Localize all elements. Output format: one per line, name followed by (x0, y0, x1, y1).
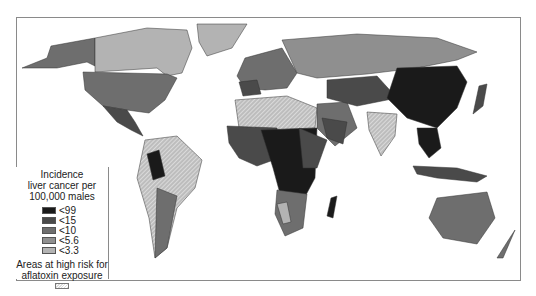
region-australia (429, 192, 495, 244)
region-indonesia (413, 166, 487, 182)
legend-risk-line: aflatoxin exposure (16, 270, 108, 281)
region-japan (473, 84, 487, 114)
legend-item: <10 (42, 225, 82, 235)
legend-swatch (42, 207, 56, 214)
region-greenland (197, 24, 247, 56)
region-new-zealand (497, 230, 515, 258)
legend-title-line: liver cancer per (16, 180, 108, 191)
legend-categories: <99 <15 <10 <5.6 <3.3 (42, 205, 82, 255)
legend-item: <5.6 (42, 235, 82, 245)
region-usa (83, 72, 177, 113)
hatch-pattern-swatch (55, 283, 69, 289)
legend-label: <3.3 (59, 245, 79, 256)
legend-swatch (42, 227, 56, 234)
region-madagascar (327, 196, 337, 218)
legend-swatch (42, 247, 56, 254)
legend-swatch (42, 217, 56, 224)
legend-title: Incidence liver cancer per 100,000 males (16, 169, 108, 202)
region-india (367, 112, 397, 156)
region-argentina (155, 188, 177, 258)
legend-item: <15 (42, 215, 82, 225)
legend-title-line: 100,000 males (16, 191, 108, 202)
legend-title-line: Incidence (16, 169, 108, 180)
legend-swatch (42, 237, 56, 244)
region-western-europe (239, 80, 261, 96)
legend-item: <3.3 (42, 245, 82, 255)
region-alaska (22, 38, 95, 68)
region-canada (95, 28, 192, 76)
map-legend: Incidence liver cancer per 100,000 males… (16, 167, 109, 279)
region-north-africa (235, 96, 317, 130)
region-central-asia (327, 76, 397, 106)
region-southeast-asia (417, 128, 441, 158)
region-china (387, 66, 467, 128)
legend-risk-line: Areas at high risk for (16, 259, 108, 270)
legend-item: <99 (42, 205, 82, 215)
legend-risk-label: Areas at high risk for aflatoxin exposur… (16, 259, 108, 281)
